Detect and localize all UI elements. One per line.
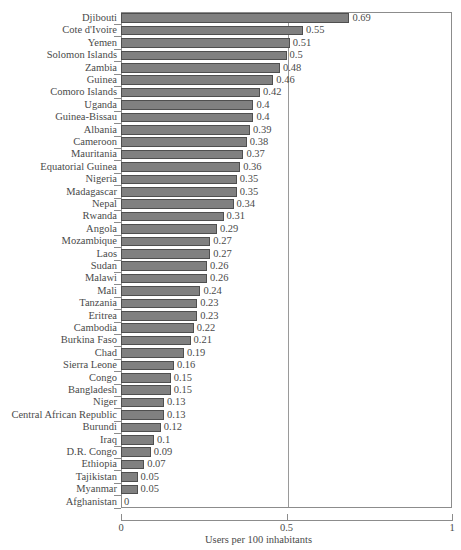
bar-row: Madagascar0.35 <box>0 186 461 198</box>
category-label: Cameroon <box>73 137 117 148</box>
bar-row: Burkina Faso0.21 <box>0 334 461 346</box>
bar <box>121 361 174 371</box>
bar-value-label: 0.13 <box>167 410 185 421</box>
bar-row: Cameroon0.38 <box>0 136 461 148</box>
category-label: Mauritania <box>71 149 117 160</box>
bar-value-label: 0.4 <box>256 100 269 111</box>
bar <box>121 423 161 433</box>
bar <box>121 63 280 73</box>
category-label: Mali <box>97 286 117 297</box>
category-label: Solomon Islands <box>47 50 117 61</box>
bar <box>121 286 200 296</box>
category-label: Iraq <box>100 435 117 446</box>
bar-value-label: 0.37 <box>246 149 264 160</box>
category-label: Central African Republic <box>11 410 117 421</box>
bar-row: Afghanistan0 <box>0 496 461 508</box>
category-label: Yemen <box>88 38 117 49</box>
bar-row: Burundi0.12 <box>0 421 461 433</box>
bar-row: Djibouti0.69 <box>0 12 461 24</box>
bar-value-label: 0.22 <box>197 323 215 334</box>
bar <box>121 299 197 309</box>
bar-value-label: 0.26 <box>210 261 228 272</box>
bar <box>121 460 144 470</box>
category-label: Niger <box>93 397 117 408</box>
bar-value-label: 0.34 <box>237 199 255 210</box>
bar <box>121 447 151 457</box>
bar-value-label: 0.31 <box>227 211 245 222</box>
bar-row: Malawi0.26 <box>0 272 461 284</box>
bar-row: Sudan0.26 <box>0 260 461 272</box>
bar <box>121 274 207 284</box>
bar-row: Mauritania0.37 <box>0 148 461 160</box>
bar-value-label: 0.24 <box>203 286 221 297</box>
bar-value-label: 0.36 <box>243 162 261 173</box>
category-label: Djibouti <box>82 13 117 24</box>
bar-row: Mozambique0.27 <box>0 235 461 247</box>
bar-value-label: 0.15 <box>174 385 192 396</box>
bar-value-label: 0.19 <box>187 348 205 359</box>
bar-value-label: 0.16 <box>177 360 195 371</box>
bar-row: Chad0.19 <box>0 347 461 359</box>
bar-row: Congo0.15 <box>0 372 461 384</box>
bar-value-label: 0.13 <box>167 397 185 408</box>
bar <box>121 113 253 123</box>
bar-value-label: 0.09 <box>154 447 172 458</box>
category-label: Laos <box>97 249 117 260</box>
category-label: D.R. Congo <box>67 447 117 458</box>
x-axis-tick-label: 0.5 <box>280 523 293 534</box>
bar <box>121 51 287 61</box>
bar <box>121 212 224 222</box>
bar <box>121 311 197 321</box>
category-label: Guinea-Bissau <box>55 112 117 123</box>
bar-row: Angola0.29 <box>0 223 461 235</box>
category-label: Angola <box>86 224 117 235</box>
bar-value-label: 0.07 <box>147 459 165 470</box>
bar-row: Yemen0.51 <box>0 37 461 49</box>
category-label: Myanmar <box>76 484 117 495</box>
bar <box>121 249 210 259</box>
bar <box>121 75 273 85</box>
x-axis-title-text: Users per 100 inhabitants <box>205 534 312 545</box>
bar <box>121 175 237 185</box>
x-axis-tick-label: 0 <box>118 523 123 534</box>
category-label: Comoro Islands <box>50 87 117 98</box>
bar-value-label: 0.27 <box>213 236 231 247</box>
category-label: Cote d'Ivoire <box>62 25 117 36</box>
bar <box>121 199 234 209</box>
category-label: Madagascar <box>66 187 117 198</box>
bar-value-label: 0.05 <box>141 484 159 495</box>
bar <box>121 472 138 482</box>
bar-row: Myanmar0.05 <box>0 483 461 495</box>
bar <box>121 38 290 48</box>
bar-value-label: 0.39 <box>253 125 271 136</box>
bar-row: Mali0.24 <box>0 285 461 297</box>
bar-row: Cambodia0.22 <box>0 322 461 334</box>
bar <box>121 398 164 408</box>
bar-value-label: 0.55 <box>306 25 324 36</box>
bar-row: Guinea0.46 <box>0 74 461 86</box>
bar-value-label: 0.27 <box>213 249 231 260</box>
bar-row: Solomon Islands0.5 <box>0 49 461 61</box>
category-label: Cambodia <box>74 323 117 334</box>
bar-value-label: 0.05 <box>141 472 159 483</box>
bar-value-label: 0.4 <box>256 112 269 123</box>
bar <box>121 13 349 23</box>
bar-row: Sierra Leone0.16 <box>0 359 461 371</box>
bar <box>121 150 243 160</box>
bar-value-label: 0.12 <box>164 422 182 433</box>
category-label: Chad <box>95 348 117 359</box>
bar <box>121 336 191 346</box>
category-label: Tanzania <box>79 298 117 309</box>
x-axis-title: Users per 100 inhabitants <box>0 535 461 546</box>
bar-row: Comoro Islands0.42 <box>0 86 461 98</box>
bar-value-label: 0.35 <box>240 187 258 198</box>
bar-value-label: 0.23 <box>200 311 218 322</box>
bar-row: Niger0.13 <box>0 396 461 408</box>
bar-row: Bangladesh0.15 <box>0 384 461 396</box>
category-label: Rwanda <box>83 211 117 222</box>
bar <box>121 162 240 172</box>
bar-value-label: 0.21 <box>194 335 212 346</box>
bar-value-label: 0.46 <box>276 75 294 86</box>
bar-row: Central African Republic0.13 <box>0 409 461 421</box>
y-axis-tick <box>114 508 121 509</box>
